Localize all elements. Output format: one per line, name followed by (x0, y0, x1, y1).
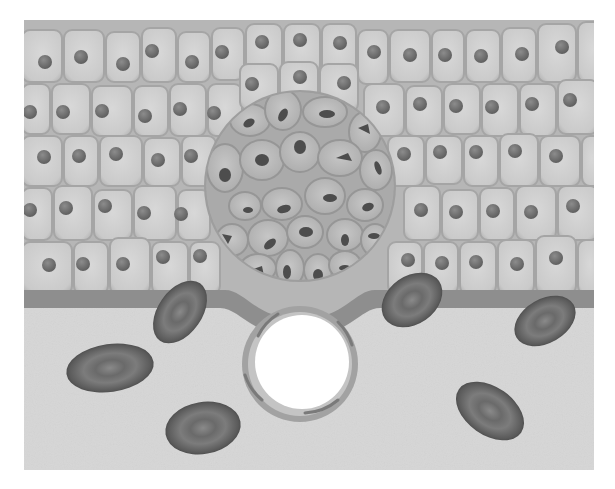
blood-vessel (242, 306, 358, 422)
vessel-lumen (255, 315, 349, 409)
tissue-diagram: Epithelium with carcinoma in situ above … (0, 0, 615, 489)
